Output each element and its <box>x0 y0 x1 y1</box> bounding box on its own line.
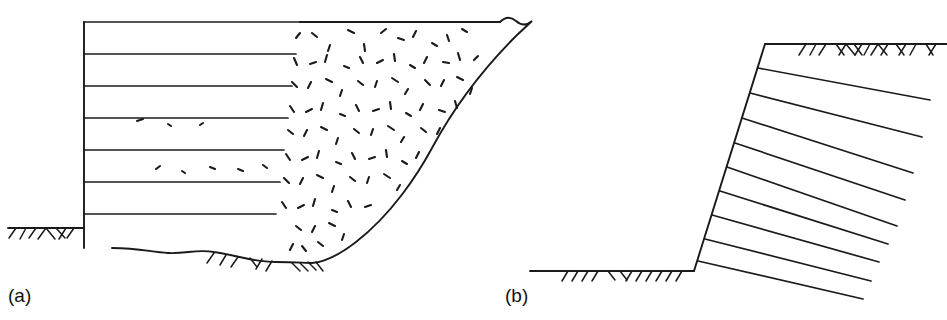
ground-hatching-left-a <box>9 228 74 239</box>
wall-fill-texture <box>137 119 267 173</box>
panel-label-a: (a) <box>8 285 31 307</box>
cross-section-figure <box>0 0 947 320</box>
panel-b-reinforced-slope <box>530 44 947 299</box>
panel-a-reinforced-wall <box>8 18 532 271</box>
panel-label-b: (b) <box>505 285 528 307</box>
granular-fill-texture <box>282 29 478 251</box>
ground-hatching-crest-b <box>799 44 936 55</box>
ground-hatching-toe-b <box>562 271 682 281</box>
reinforcement-layers-b <box>698 68 930 299</box>
reinforcement-layers-a <box>84 22 300 214</box>
figure-canvas: (a) (b) <box>0 0 947 320</box>
wall-face-line-b <box>694 44 765 271</box>
